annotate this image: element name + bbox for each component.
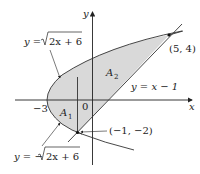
line-label: y = x − 1 [130, 81, 178, 92]
upper-curve-label: y = 2x + 6 [23, 32, 82, 47]
point-label-5-4: (5, 4) [169, 43, 196, 54]
svg-text:1: 1 [68, 113, 72, 121]
tick-label-minus-3: −3 [33, 103, 48, 114]
svg-text:y = −: y = − [13, 151, 43, 162]
svg-text:A: A [59, 107, 67, 118]
lower-curve-label: y = − 2x + 6 [13, 147, 80, 162]
upper-curve-pointer [50, 50, 60, 78]
point-label-minus1-minus2: (−1, −2) [109, 125, 153, 136]
y-axis-label: y [82, 8, 89, 19]
svg-text:2: 2 [114, 73, 118, 81]
point-minus1-minus2 [76, 131, 79, 134]
origin-label: 0 [82, 101, 88, 112]
svg-text:A: A [105, 67, 113, 78]
lower-curve-pointer [42, 123, 60, 146]
x-axis-label: x [189, 101, 195, 112]
svg-text:2x + 6: 2x + 6 [46, 151, 79, 162]
point-5-4 [167, 33, 170, 36]
diagram-canvas: y x 0 −3 y = 2x + 6 y = − 2x + 6 y = x −… [0, 0, 200, 174]
point-pointer [81, 131, 107, 132]
svg-text:y =: y = [23, 36, 41, 47]
svg-text:2x + 6: 2x + 6 [49, 36, 82, 47]
